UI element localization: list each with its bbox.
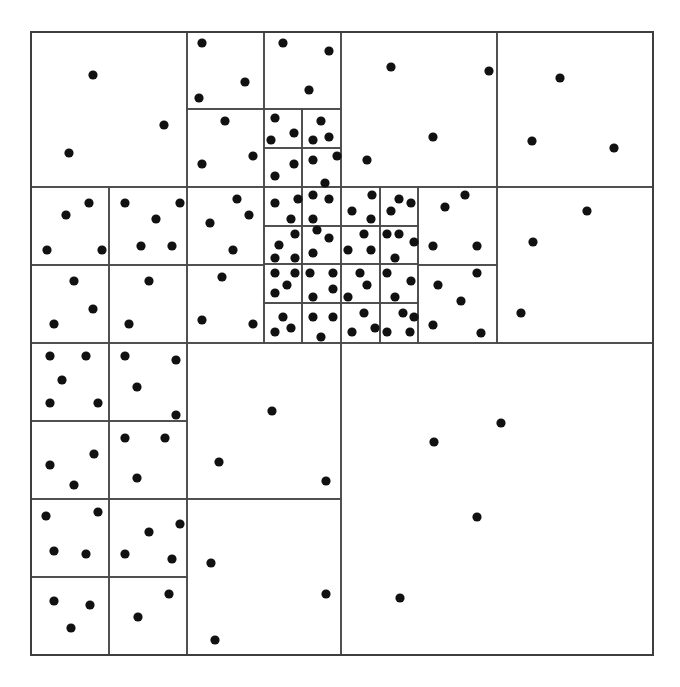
data-point (270, 171, 279, 180)
quadtree-cell (264, 32, 341, 109)
data-point (582, 206, 591, 215)
quadtree-cell (31, 265, 109, 343)
data-point (308, 155, 317, 164)
data-point (362, 280, 371, 289)
data-point (270, 113, 279, 122)
data-point (171, 410, 180, 419)
data-point (406, 198, 415, 207)
data-point (270, 253, 279, 262)
data-point (286, 214, 295, 223)
data-point (366, 245, 375, 254)
points-layer (41, 38, 618, 644)
data-point (97, 245, 106, 254)
data-point (409, 237, 418, 246)
quadtree-cell (418, 187, 497, 265)
quadtree-cell (31, 32, 187, 187)
quadtree-cell (341, 303, 380, 343)
data-point (240, 77, 249, 86)
quadtree-cell (31, 577, 109, 655)
data-point (366, 214, 375, 223)
data-point (171, 355, 180, 364)
data-point (270, 327, 279, 336)
data-point (194, 93, 203, 102)
data-point (151, 214, 160, 223)
data-point (270, 268, 279, 277)
data-point (290, 253, 299, 262)
quadtree-svg (0, 0, 680, 687)
data-point (476, 328, 485, 337)
data-point (367, 190, 376, 199)
data-point (197, 38, 206, 47)
data-point (81, 549, 90, 558)
quadtree-cell (341, 343, 653, 655)
data-point (210, 635, 219, 644)
data-point (286, 323, 295, 332)
data-point (382, 229, 391, 238)
data-point (370, 323, 379, 332)
data-point (160, 433, 169, 442)
data-point (232, 194, 241, 203)
data-point (144, 527, 153, 536)
data-point (274, 240, 283, 249)
data-point (132, 473, 141, 482)
data-point (359, 229, 368, 238)
data-point (308, 312, 317, 321)
data-point (124, 319, 133, 328)
data-point (49, 546, 58, 555)
data-point (120, 433, 129, 442)
data-point (88, 304, 97, 313)
data-point (270, 288, 279, 297)
data-point (308, 135, 317, 144)
data-point (132, 382, 141, 391)
data-point (409, 312, 418, 321)
data-point (428, 132, 437, 141)
quadtree-cell (187, 343, 341, 499)
data-point (217, 272, 226, 281)
data-point (248, 151, 257, 160)
data-point (320, 178, 329, 187)
data-point (289, 159, 298, 168)
data-point (472, 512, 481, 521)
data-point (328, 268, 337, 277)
data-point (248, 319, 257, 328)
data-point (324, 194, 333, 203)
quadtree-diagram (0, 0, 680, 687)
data-point (228, 245, 237, 254)
quadtree-cell (380, 303, 418, 343)
data-point (555, 73, 564, 82)
data-point (472, 241, 481, 250)
data-point (93, 398, 102, 407)
data-point (289, 128, 298, 137)
data-point (362, 155, 371, 164)
data-point (394, 194, 403, 203)
data-point (120, 549, 129, 558)
data-point (347, 206, 356, 215)
data-point (64, 148, 73, 157)
cells-layer (31, 32, 653, 655)
data-point (406, 276, 415, 285)
data-point (66, 623, 75, 632)
data-point (308, 190, 317, 199)
data-point (175, 519, 184, 528)
data-point (206, 558, 215, 567)
data-point (85, 600, 94, 609)
data-point (428, 241, 437, 250)
data-point (290, 229, 299, 238)
data-point (472, 268, 481, 277)
data-point (45, 351, 54, 360)
data-point (355, 268, 364, 277)
quadtree-cell (187, 187, 264, 265)
data-point (359, 308, 368, 317)
data-point (45, 460, 54, 469)
data-point (316, 116, 325, 125)
data-point (308, 248, 317, 257)
data-point (305, 268, 314, 277)
data-point (386, 62, 395, 71)
data-point (136, 241, 145, 250)
data-point (382, 327, 391, 336)
data-point (197, 315, 206, 324)
data-point (167, 241, 176, 250)
data-point (324, 46, 333, 55)
data-point (324, 233, 333, 242)
quadtree-cell (302, 187, 341, 226)
